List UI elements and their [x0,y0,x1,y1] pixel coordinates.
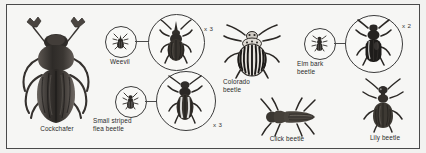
flea-beetle-magnification-label: x 3 [213,121,222,128]
plate-frame: Cockchafer [6,4,420,149]
specimen-elm-bark-beetle-actual-size [312,34,327,52]
specimen-weevil-magnified [159,19,193,64]
specimen-weevil-label: Weevil [92,58,148,66]
specimen-lily-beetle-label: Lily beetle [359,134,411,142]
specimen-click-beetle-label: Click beetle [252,135,322,143]
elm-bark-beetle-magnification-label: x 2 [402,22,411,29]
specimen-click-beetle-figure [252,98,322,136]
specimen-lily-beetle-figure [362,79,404,133]
weevil-connector-line [135,41,149,42]
specimen-elm-bark-beetle-magnified [356,20,391,66]
specimen-cockchafer-figure [17,13,95,125]
specimen-flea-beetle-magnified [167,76,203,124]
specimen-colorado-beetle-label: Colorado beetle [223,78,281,93]
illustration-plate: Cockchafer [0,0,426,153]
specimen-elm-bark-beetle-label: Elm bark beetle [297,60,351,75]
specimen-flea-beetle-label: Small striped flea beetle [93,117,161,132]
specimen-cockchafer-label: Cockchafer [11,125,103,133]
specimen-flea-beetle-actual-size [123,92,138,110]
specimen-weevil-actual-size [113,32,128,50]
specimen-colorado-beetle-figure [223,23,281,79]
weevil-magnification-label: x 3 [204,25,213,32]
